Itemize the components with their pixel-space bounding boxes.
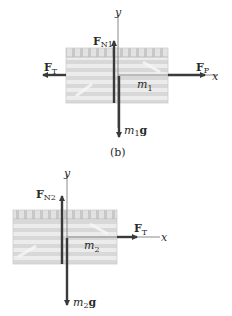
free-body-diagrams: y x FN1 FT FP m1 m1g (b) bbox=[0, 0, 232, 316]
tension-label: FT bbox=[44, 61, 58, 76]
weight-label: m2g bbox=[73, 296, 97, 310]
x-axis-label: x bbox=[212, 70, 219, 83]
push-force-label: FP bbox=[196, 61, 210, 75]
normal-force-label: FN2 bbox=[36, 188, 56, 202]
caption-b: (b) bbox=[110, 146, 126, 159]
y-axis-label: y bbox=[63, 167, 71, 180]
diagram-bottom: y x FN2 FT m2 m2g bbox=[13, 167, 168, 310]
diagram-top: y x FN1 FT FP m1 m1g (b) bbox=[43, 6, 219, 159]
normal-force-label: FN1 bbox=[93, 35, 113, 49]
weight-label: m1g bbox=[124, 124, 148, 138]
y-axis-label: y bbox=[114, 6, 122, 19]
x-axis-label: x bbox=[161, 231, 168, 244]
tension-label: FT bbox=[134, 222, 148, 237]
